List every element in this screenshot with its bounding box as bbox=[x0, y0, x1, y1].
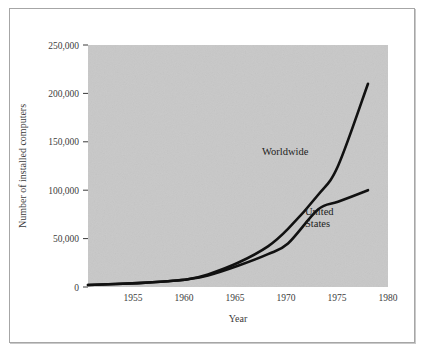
y-axis-ticks bbox=[83, 45, 88, 287]
x-axis-tick-labels: 1955 1960 1965 1970 1975 1980 bbox=[124, 293, 398, 303]
y-tick-label-50000: 50,000 bbox=[53, 234, 79, 244]
x-tick-label-1970: 1970 bbox=[277, 293, 296, 303]
x-tick-label-1960: 1960 bbox=[175, 293, 194, 303]
x-tick-label-1975: 1975 bbox=[328, 293, 347, 303]
y-tick-label-0: 0 bbox=[74, 283, 79, 293]
x-tick-label-1955: 1955 bbox=[124, 293, 143, 303]
y-axis-tick-labels: 250,000 200,000 150,000 100,000 50,000 0 bbox=[48, 41, 79, 293]
series-label-united-states-line1: United bbox=[305, 206, 334, 217]
x-tick-label-1965: 1965 bbox=[226, 293, 245, 303]
x-axis-title: Year bbox=[229, 313, 248, 324]
y-axis-title: Number of installed computers bbox=[17, 104, 28, 228]
y-tick-label-100000: 100,000 bbox=[48, 186, 79, 196]
plot-area-grain bbox=[88, 45, 388, 287]
line-chart: 250,000 200,000 150,000 100,000 50,000 0… bbox=[0, 0, 425, 354]
series-label-united-states-line2: States bbox=[305, 218, 330, 229]
y-tick-label-200000: 200,000 bbox=[48, 89, 79, 99]
y-tick-label-250000: 250,000 bbox=[48, 41, 79, 51]
series-label-worldwide: Worldwide bbox=[262, 146, 309, 157]
figure-container: 250,000 200,000 150,000 100,000 50,000 0… bbox=[0, 0, 425, 354]
y-tick-label-150000: 150,000 bbox=[48, 137, 79, 147]
x-tick-label-1980: 1980 bbox=[379, 293, 398, 303]
